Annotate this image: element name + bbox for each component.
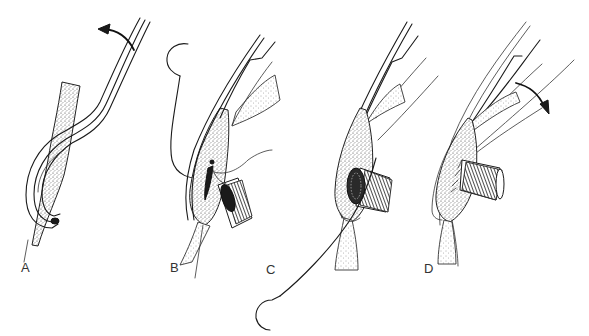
panel-a: [24, 18, 150, 262]
panel-b: [167, 35, 280, 278]
suture-point-b: [210, 160, 214, 164]
curved-needle-b: [167, 44, 188, 76]
tissue-flap-b: [232, 75, 280, 126]
vessel-edge-a: [24, 240, 28, 262]
arrowhead-a: [98, 24, 110, 34]
loop-tip-a: [51, 218, 59, 224]
panel-label-b: B: [170, 261, 179, 274]
tissue-lower-b: [180, 222, 210, 265]
panel-d: [432, 22, 574, 266]
curved-needle-c: [256, 296, 280, 330]
panel-label-c: C: [266, 263, 275, 276]
instrument-line-d3: [475, 40, 540, 122]
instrument-line-d6: [474, 60, 574, 150]
panel-c: [256, 22, 438, 330]
panel-label-a: A: [21, 261, 30, 274]
graft-tube-b: [218, 178, 252, 228]
panel-label-d: D: [424, 262, 433, 275]
surgical-illustration: [0, 0, 589, 336]
